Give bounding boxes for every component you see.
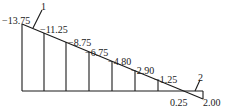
moment-diagram: −13.75 −11.25 −8.75 −6.75 −4.80 −2.90 −1… <box>0 0 225 111</box>
callout-2-label: 2 <box>198 72 203 83</box>
right-end-label: 2.00 <box>203 97 221 108</box>
ordinate-label: −11.25 <box>40 24 68 35</box>
ordinate-label: −13.75 <box>2 15 30 26</box>
ordinate-label: −1.25 <box>154 74 177 85</box>
ordinate-label: −2.90 <box>131 65 154 76</box>
callout-1-label: 1 <box>41 1 46 12</box>
crossing-label: 0.25 <box>170 97 188 108</box>
ordinate-label: −6.75 <box>85 47 108 58</box>
ordinate-label: −4.80 <box>108 56 131 67</box>
